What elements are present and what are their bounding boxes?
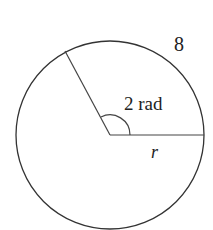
- radius-label: r: [151, 142, 159, 162]
- radius-line-angled: [65, 51, 110, 135]
- angle-arc: [101, 115, 130, 135]
- circle-sector-diagram: 8 2 rad r: [0, 0, 213, 230]
- arc-length-label: 8: [174, 33, 184, 55]
- angle-label: 2 rad: [124, 93, 163, 114]
